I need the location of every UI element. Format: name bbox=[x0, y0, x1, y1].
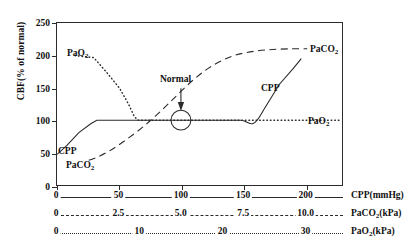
axis-tick-label: 50 bbox=[112, 190, 126, 200]
label-paco2-left: PaCO2 bbox=[66, 161, 94, 171]
y-axis-label: CBF(% of normal) bbox=[16, 0, 26, 126]
axis-row-pao2: 0 10 20 30 PaO2(kPa) bbox=[56, 226, 390, 240]
curves-svg bbox=[57, 23, 342, 185]
normal-arrow-head bbox=[178, 102, 184, 111]
label-paco2-right: PaCO2 bbox=[310, 45, 338, 55]
axis-tick-label: 5.0 bbox=[173, 208, 189, 218]
axis-tick-label: 150 bbox=[234, 190, 252, 200]
axis-tick-label: 10 bbox=[132, 226, 146, 236]
axis-tick-label: 10.0 bbox=[295, 208, 316, 218]
y-tick-label: 250 bbox=[36, 18, 50, 28]
axis-unit-cpp: CPP(mmHg) bbox=[351, 190, 404, 200]
plot-area: 0 50 100 150 200 250 PaO2 CPP P bbox=[56, 22, 343, 186]
y-tick-label: 50 bbox=[41, 149, 51, 159]
axis-unit-pao2: PaO2(kPa) bbox=[351, 226, 395, 236]
axis-row-cpp: 0 50 100 150 200 CPP(mmHg) bbox=[56, 190, 390, 204]
y-tick-label: 200 bbox=[36, 51, 50, 61]
axis-tick-label: 0 bbox=[52, 208, 61, 218]
series-paco2-line bbox=[89, 49, 307, 161]
axis-tick-label: 2.5 bbox=[110, 208, 126, 218]
axis-tick-label: 200 bbox=[296, 190, 314, 200]
axis-tick-label: 100 bbox=[172, 190, 190, 200]
series-cpp-line bbox=[57, 59, 301, 155]
axis-row-paco2: 0 2.5 5.0 7.5 10.0 PaCO2(kPa) bbox=[56, 208, 390, 222]
axis-tick-label: 0 bbox=[52, 226, 61, 236]
y-tick-label: 150 bbox=[36, 84, 50, 94]
axis-tick-label: 7.5 bbox=[235, 208, 251, 218]
axis-unit-paco2: PaCO2(kPa) bbox=[351, 208, 401, 218]
label-normal: Normal bbox=[160, 75, 191, 85]
y-tick-label: 100 bbox=[36, 116, 50, 126]
label-cpp-right: CPP bbox=[261, 84, 279, 94]
axis-tick-label: 0 bbox=[52, 190, 61, 200]
label-pao2-right: PaO2 bbox=[308, 117, 329, 127]
axis-tick-label: 30 bbox=[299, 226, 313, 236]
label-pao2-left: PaO2 bbox=[67, 49, 88, 59]
axis-tick-label: 20 bbox=[216, 226, 230, 236]
y-tick-label: 0 bbox=[45, 182, 50, 192]
label-cpp-left: CPP bbox=[58, 147, 76, 157]
series-pao2-line bbox=[75, 56, 340, 121]
